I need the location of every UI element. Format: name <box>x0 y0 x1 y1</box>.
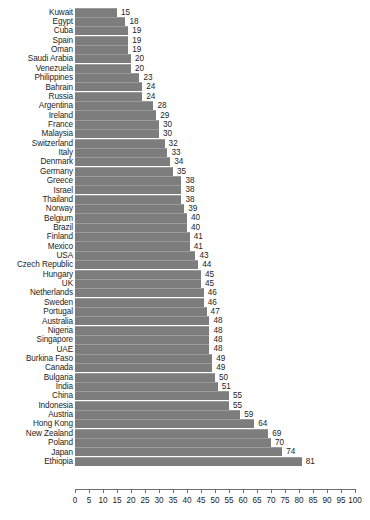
bar-track: 48 <box>75 326 355 334</box>
bar <box>75 26 128 35</box>
category-label: Oman <box>51 45 73 54</box>
x-axis-tick <box>313 489 314 493</box>
bar <box>75 36 128 45</box>
bar-track: 49 <box>75 363 355 371</box>
chart-row: Philippines23 <box>0 73 370 82</box>
bar-track: 15 <box>75 8 355 16</box>
x-axis-tick-label: 15 <box>112 496 121 506</box>
x-axis-tick <box>201 489 202 493</box>
bar-track: 47 <box>75 307 355 315</box>
bar <box>75 45 128 54</box>
chart-row: Cuba19 <box>0 26 370 35</box>
value-label: 45 <box>201 269 214 278</box>
category-label: Ethiopia <box>44 456 73 465</box>
category-label: Hungary <box>43 269 73 278</box>
bar <box>75 129 159 138</box>
chart-row: Venezuela20 <box>0 63 370 72</box>
bar-track: 39 <box>75 204 355 212</box>
bar-track: 38 <box>75 176 355 184</box>
value-label: 30 <box>159 119 172 128</box>
bar <box>75 335 209 344</box>
bar-track: 28 <box>75 101 355 109</box>
chart-row: Spain19 <box>0 35 370 44</box>
bar-track: 32 <box>75 139 355 147</box>
chart-row: New Zealand69 <box>0 428 370 437</box>
chart-row: Austria59 <box>0 409 370 418</box>
bar-track: 19 <box>75 36 355 44</box>
value-label: 24 <box>142 82 155 91</box>
x-axis-tick <box>257 489 258 493</box>
x-axis-tick-label: 20 <box>126 496 135 506</box>
chart-row: Oman19 <box>0 44 370 53</box>
chart-row: India51 <box>0 381 370 390</box>
x-axis-line <box>75 489 355 490</box>
bar-track: 19 <box>75 26 355 34</box>
bar <box>75 195 181 204</box>
value-label: 19 <box>128 44 141 53</box>
chart-row: Kuwait15 <box>0 7 370 16</box>
chart-row: Japan74 <box>0 447 370 456</box>
x-axis-tick-label: 10 <box>98 496 107 506</box>
category-label: Hong Kong <box>33 419 73 428</box>
value-label: 81 <box>302 456 315 465</box>
bar-track: 40 <box>75 223 355 231</box>
chart-row: Russia24 <box>0 91 370 100</box>
x-axis-tick-label: 75 <box>280 496 289 506</box>
bar-track: 74 <box>75 447 355 455</box>
x-axis-tick <box>103 489 104 493</box>
value-label: 34 <box>170 157 183 166</box>
value-label: 38 <box>181 194 194 203</box>
category-label: Russia <box>49 91 73 100</box>
category-label: Spain <box>53 35 73 44</box>
chart-row: Nigeria48 <box>0 325 370 334</box>
category-label: Malaysia <box>41 129 73 138</box>
chart-rows: Kuwait15Egypt18Cuba19Spain19Oman19Saudi … <box>0 7 370 466</box>
bar <box>75 110 156 119</box>
bar-track: 38 <box>75 195 355 203</box>
bar <box>75 279 201 288</box>
x-axis-tick <box>285 489 286 493</box>
x-axis-tick <box>215 489 216 493</box>
bar <box>75 288 204 297</box>
value-label: 55 <box>229 400 242 409</box>
category-label: Belgium <box>44 213 73 222</box>
chart-row: Norway39 <box>0 204 370 213</box>
chart-row: UK45 <box>0 278 370 287</box>
value-label: 40 <box>187 222 200 231</box>
value-label: 46 <box>204 297 217 306</box>
bar-track: 45 <box>75 279 355 287</box>
bar <box>75 326 209 335</box>
chart-row: Germany35 <box>0 166 370 175</box>
chart-row: Burkina Faso49 <box>0 353 370 362</box>
bar <box>75 429 268 438</box>
chart-row: Egypt18 <box>0 16 370 25</box>
bar <box>75 419 254 428</box>
chart-row: Greece38 <box>0 175 370 184</box>
category-label: Venezuela <box>36 63 73 72</box>
chart-row: Portugal47 <box>0 307 370 316</box>
bar-track: 30 <box>75 129 355 137</box>
x-axis-tick-label: 25 <box>140 496 149 506</box>
chart-row: France30 <box>0 119 370 128</box>
bar-track: 40 <box>75 213 355 221</box>
bar-track: 64 <box>75 419 355 427</box>
chart-row: Sweden46 <box>0 297 370 306</box>
bar <box>75 204 184 213</box>
chart-row: Mexico41 <box>0 241 370 250</box>
value-label: 74 <box>282 447 295 456</box>
chart-row: Poland70 <box>0 438 370 447</box>
bar <box>75 457 302 466</box>
x-axis-tick <box>187 489 188 493</box>
chart-row: Australia48 <box>0 316 370 325</box>
x-axis-tick-label: 85 <box>308 496 317 506</box>
category-label: Finland <box>47 232 73 241</box>
bar <box>75 17 125 26</box>
x-axis-tick-label: 100 <box>348 496 362 506</box>
bar-track: 24 <box>75 82 355 90</box>
x-axis-tick-label: 55 <box>224 496 233 506</box>
x-axis-tick <box>327 489 328 493</box>
bar <box>75 307 207 316</box>
chart-row: Netherlands46 <box>0 288 370 297</box>
bar <box>75 401 229 410</box>
bar <box>75 344 209 353</box>
